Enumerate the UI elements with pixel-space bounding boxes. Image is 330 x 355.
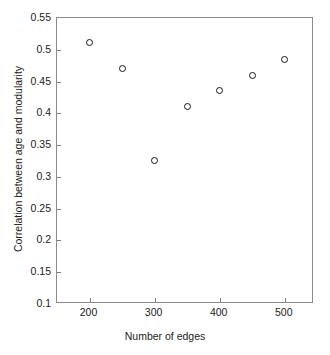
y-axis-tick <box>57 272 61 273</box>
y-axis-tick <box>57 177 61 178</box>
data-point <box>119 65 126 72</box>
x-axis-tick-label: 400 <box>199 307 239 318</box>
data-point <box>249 72 256 79</box>
y-axis-tick-label: 0.25 <box>31 203 51 214</box>
data-point <box>184 103 191 110</box>
data-point <box>216 87 223 94</box>
y-axis-tick <box>57 145 61 146</box>
x-axis-tick-label: 300 <box>134 307 174 318</box>
plot-frame <box>56 17 313 303</box>
y-axis-title: Correlation between age and modularity <box>12 34 24 284</box>
y-axis-tick-label: 0.15 <box>31 266 51 277</box>
y-axis-tick-label: 0.4 <box>36 107 51 118</box>
data-point <box>151 157 158 164</box>
x-axis-tick <box>155 298 156 302</box>
scatter-chart-figure: 0.10.150.20.250.30.350.40.450.50.5520030… <box>0 0 330 355</box>
x-axis-tick <box>285 298 286 302</box>
y-axis-tick-label: 0.35 <box>31 139 51 150</box>
x-axis-tick-label: 200 <box>69 307 109 318</box>
x-axis-tick-label: 500 <box>264 307 304 318</box>
y-axis-tick-label: 0.3 <box>36 171 51 182</box>
y-axis-tick-label: 0.45 <box>31 76 51 87</box>
y-axis-tick <box>57 240 61 241</box>
y-axis-tick-label: 0.55 <box>31 12 51 23</box>
y-axis-tick-label: 0.1 <box>36 298 51 309</box>
x-axis-tick <box>220 298 221 302</box>
y-axis-tick-label: 0.2 <box>36 234 51 245</box>
data-point <box>281 56 288 63</box>
data-point <box>86 39 93 46</box>
x-axis-tick <box>90 298 91 302</box>
plot-area <box>57 18 312 302</box>
y-axis-tick <box>57 209 61 210</box>
y-axis-tick-label: 0.5 <box>36 44 51 55</box>
y-axis-tick <box>57 50 61 51</box>
y-axis-tick <box>57 113 61 114</box>
y-axis-tick <box>57 82 61 83</box>
x-axis-title: Number of edges <box>0 330 330 342</box>
